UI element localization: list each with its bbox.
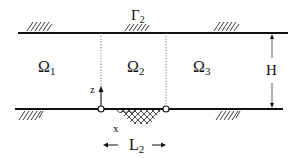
junction-node-right [163, 106, 169, 112]
region-omega-3: Ω3 [193, 58, 211, 77]
top-wall [18, 22, 288, 33]
junction-node-left [98, 106, 104, 112]
wall-hatch-top-right [214, 22, 239, 31]
z-axis-label: z [90, 83, 95, 95]
x-axis-label: x [113, 122, 119, 134]
wall-hatch-bottom-left [19, 111, 43, 120]
region-omega-1: Ω1 [38, 58, 55, 77]
channel-diagram: Γ2 z x Ω1 Ω2 Ω3 [0, 0, 299, 158]
porous-region [117, 110, 162, 124]
z-axis [99, 86, 104, 106]
length-label: L2 [129, 136, 144, 155]
wall-hatch-top-left [27, 22, 52, 31]
region-omega-2: Ω2 [127, 58, 144, 77]
wall-hatch-top-middle [125, 24, 149, 31]
wall-hatch-bottom-right [216, 111, 240, 120]
height-label: H [266, 62, 277, 78]
gamma-label: Γ2 [131, 7, 145, 25]
